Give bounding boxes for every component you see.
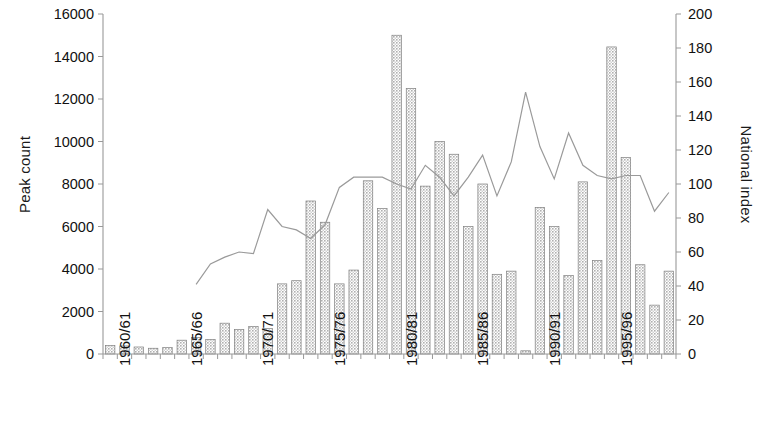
bar — [421, 186, 430, 354]
bar — [105, 346, 114, 355]
y-axis-right-tick-label: 80 — [688, 210, 738, 226]
bar-series — [105, 35, 673, 354]
plot-area — [0, 0, 763, 439]
bar — [564, 275, 573, 354]
bar — [306, 201, 315, 354]
y-axis-right-title: National index — [738, 115, 755, 235]
bar — [592, 261, 601, 355]
bar — [363, 181, 372, 354]
x-axis-tick-label: 1985/86 — [474, 312, 491, 366]
bar — [650, 305, 659, 354]
line-series — [196, 92, 669, 284]
bar — [206, 340, 215, 354]
y-axis-left-tick-label: 12000 — [30, 91, 94, 107]
y-axis-left-tick-label: 14000 — [30, 49, 94, 65]
y-axis-right-tick-label: 20 — [688, 312, 738, 328]
bar — [378, 208, 387, 354]
bar — [578, 182, 587, 354]
y-axis-right-tick-label: 200 — [688, 6, 738, 22]
line-path — [196, 92, 669, 284]
bar — [449, 154, 458, 354]
bar — [349, 270, 358, 354]
bar — [163, 348, 172, 354]
bar — [492, 274, 501, 354]
x-axis-tick-label: 1990/91 — [546, 312, 563, 366]
bar — [220, 323, 229, 354]
y-axis-left-tick-label: 8000 — [30, 176, 94, 192]
chart-container: Peak count National index 02000400060008… — [0, 0, 763, 439]
y-axis-left-tick-label: 0 — [30, 346, 94, 362]
y-axis-right-tick-label: 160 — [688, 74, 738, 90]
bar — [134, 347, 143, 354]
x-axis-tick-label: 1960/61 — [116, 312, 133, 366]
y-axis-left-tick-label: 2000 — [30, 304, 94, 320]
bar — [607, 47, 616, 354]
y-axis-right-tick-label: 180 — [688, 40, 738, 56]
bar — [464, 227, 473, 355]
x-axis-tick-label: 1970/71 — [259, 312, 276, 366]
bar — [148, 348, 157, 354]
bar — [249, 326, 258, 354]
y-axis-right-tick-label: 60 — [688, 244, 738, 260]
bar — [177, 340, 186, 354]
x-axis-tick-label: 1965/66 — [188, 312, 205, 366]
bar — [435, 142, 444, 355]
y-axis-left-tick-label: 4000 — [30, 261, 94, 277]
y-axis-right-tick-label: 40 — [688, 278, 738, 294]
y-axis-right-tick-label: 140 — [688, 108, 738, 124]
bar — [234, 330, 243, 354]
y-axis-right-tick-label: 120 — [688, 142, 738, 158]
bar — [635, 265, 644, 354]
x-axis-tick-label: 1975/76 — [331, 312, 348, 366]
bar — [535, 207, 544, 354]
x-axis-tick-label: 1995/96 — [618, 312, 635, 366]
y-axis-right-tick-label: 0 — [688, 346, 738, 362]
y-axis-left-title: Peak count — [16, 115, 33, 235]
bar — [277, 284, 286, 354]
bar — [320, 222, 329, 354]
y-axis-right-tick-label: 100 — [688, 176, 738, 192]
x-axis-tick-label: 1980/81 — [403, 312, 420, 366]
y-axis-left-tick-label: 10000 — [30, 134, 94, 150]
y-axis-left-tick-label: 6000 — [30, 219, 94, 235]
bar — [292, 281, 301, 354]
bar — [507, 271, 516, 354]
y-axis-left-tick-label: 16000 — [30, 6, 94, 22]
bar — [392, 35, 401, 354]
bar — [664, 271, 673, 354]
